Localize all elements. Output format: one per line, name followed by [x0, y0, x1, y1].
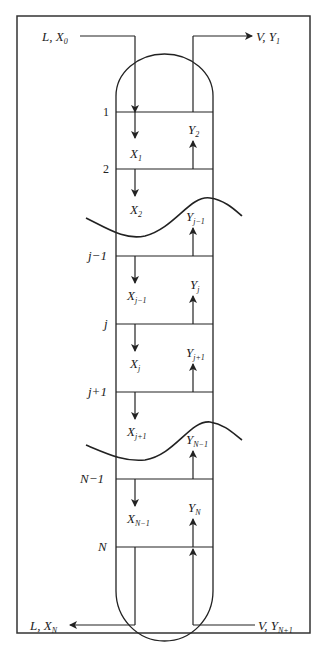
svg-text:Xj: Xj [129, 356, 141, 373]
break-wave-lower [86, 422, 242, 460]
stage-numbers: 1 2 j−1 j j+1 N−1 N [79, 105, 109, 554]
liquid-labels: X1 X2 Xj−1 Xj Xj+1 XN−1 [126, 146, 150, 528]
svg-text:Yj+1: Yj+1 [186, 345, 205, 362]
vapor-labels: Y2 Yj−1 Yj Yj+1 YN−1 YN [186, 122, 208, 517]
svg-text:Yj: Yj [190, 277, 200, 294]
top-vapor-outlet [193, 36, 252, 112]
top-liquid-inlet [80, 36, 135, 138]
svg-text:X2: X2 [129, 202, 142, 219]
bottom-liquid-outlet [70, 547, 135, 625]
svg-text:j: j [102, 316, 108, 331]
label-bottom-liquid-out: L, XN [29, 618, 58, 635]
column-shell [116, 54, 213, 641]
label-top-vapor-out: V, Y1 [256, 29, 280, 46]
svg-text:1: 1 [103, 105, 109, 119]
svg-text:Xj−1: Xj−1 [126, 288, 147, 305]
svg-text:YN−1: YN−1 [186, 432, 208, 449]
break-wave-upper [86, 198, 242, 237]
label-bottom-vapor-in: V, YN+1 [258, 618, 293, 635]
bottom-vapor-inlet [193, 549, 255, 625]
svg-text:j−1: j−1 [86, 248, 107, 263]
svg-text:2: 2 [103, 162, 109, 176]
svg-text:X1: X1 [129, 146, 142, 163]
svg-text:j+1: j+1 [86, 384, 107, 399]
svg-text:XN−1: XN−1 [126, 511, 150, 528]
svg-text:YN: YN [188, 500, 201, 517]
svg-text:Y2: Y2 [188, 122, 199, 139]
column-diagram: L, X0 V, Y1 L, XN V, YN+1 1 2 j−1 j j+1 … [0, 0, 321, 658]
svg-text:Xj+1: Xj+1 [126, 424, 147, 441]
svg-text:N: N [97, 539, 108, 554]
svg-text:Yj−1: Yj−1 [186, 209, 205, 226]
svg-text:N−1: N−1 [79, 471, 104, 486]
label-top-liquid-in: L, X0 [41, 29, 68, 46]
stage-trays [116, 112, 213, 547]
